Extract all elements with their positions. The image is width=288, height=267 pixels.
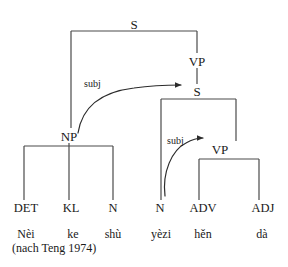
terminal-adj: ADJ xyxy=(252,202,275,215)
node-vp-lower: VP xyxy=(212,143,229,156)
terminal-det: DET xyxy=(14,202,38,215)
node-s-top: S xyxy=(130,18,137,31)
curved-arrow-np-to-s xyxy=(78,85,181,133)
terminal-n-1: N xyxy=(108,202,117,215)
node-np: NP xyxy=(61,130,78,143)
node-vp-upper: VP xyxy=(189,55,206,68)
terminal-n-2: N xyxy=(155,202,164,215)
terminal-adv: ADV xyxy=(189,202,216,215)
word-hen: hěn xyxy=(194,228,211,241)
word-ke: ke xyxy=(67,228,78,241)
word-da: dà xyxy=(256,228,267,241)
source-note: (nach Teng 1974) xyxy=(12,242,96,255)
word-shu: shù xyxy=(105,228,122,241)
word-yezi: yèzi xyxy=(151,228,171,241)
word-nei: Nèi xyxy=(17,228,34,241)
curved-arrow-n-to-vp xyxy=(164,138,203,196)
tree-lines-svg xyxy=(0,0,288,267)
terminal-kl: KL xyxy=(63,202,80,215)
arrow-label-subj-lower: subj xyxy=(167,135,184,146)
node-s-lower: S xyxy=(193,85,200,98)
arrow-label-subj-upper: subj xyxy=(84,78,101,89)
syntax-tree-figure: S VP S NP VP DET KL N N ADV ADJ Nèi ke s… xyxy=(0,0,288,267)
